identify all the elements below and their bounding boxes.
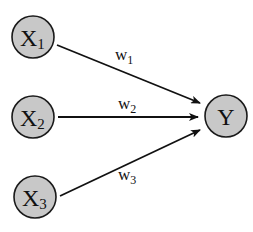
node-symbol: Y bbox=[217, 104, 234, 130]
input-node-x1: X1 bbox=[12, 16, 54, 58]
node-symbol: X bbox=[20, 25, 37, 51]
svg-text:w2: w2 bbox=[118, 94, 136, 116]
svg-text:w1: w1 bbox=[115, 45, 133, 67]
output-node-y: Y bbox=[205, 95, 247, 137]
node-symbol: X bbox=[22, 185, 39, 211]
weight-label-w3: w3 bbox=[118, 165, 136, 187]
node-symbol: X bbox=[20, 105, 37, 131]
weight-subscript: 1 bbox=[127, 53, 133, 67]
node-subscript: 2 bbox=[37, 116, 45, 132]
weight-symbol: w bbox=[115, 45, 128, 64]
input-node-x3: X3 bbox=[14, 176, 56, 218]
node-subscript: 1 bbox=[37, 36, 45, 52]
weight-symbol: w bbox=[118, 94, 131, 113]
weight-symbol: w bbox=[118, 165, 131, 184]
svg-text:w3: w3 bbox=[118, 165, 136, 187]
input-node-x2: X2 bbox=[12, 96, 54, 138]
perceptron-diagram: w1 w2 w3 X1 X2 X3 Y bbox=[0, 0, 253, 232]
weight-label-w1: w1 bbox=[115, 45, 133, 67]
weight-subscript: 2 bbox=[130, 102, 136, 116]
node-subscript: 3 bbox=[39, 196, 47, 212]
weight-subscript: 3 bbox=[130, 173, 136, 187]
weight-label-w2: w2 bbox=[118, 94, 136, 116]
